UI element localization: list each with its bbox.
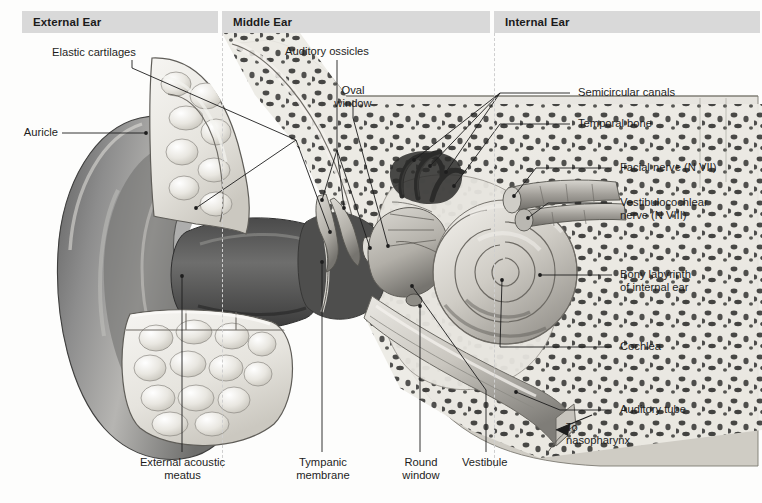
label-auditory-tube: Auditory tube — [620, 403, 686, 416]
label-vestibulocochlear-nerve: Vestibulocochlear nerve (N VIII) — [620, 196, 708, 223]
label-round-window: Round window — [392, 456, 450, 483]
label-tympanic-membrane: Tympanic membrane — [287, 456, 359, 483]
region-header-internal-ear: Internal Ear — [494, 11, 760, 33]
label-vestibule: Vestibule — [462, 456, 507, 469]
anatomy-illustration — [0, 0, 762, 503]
label-cochlea: Cochlea — [620, 340, 661, 353]
facial-nerve-art — [503, 187, 521, 213]
region-header-internal-ear-label: Internal Ear — [494, 16, 569, 28]
ear-anatomy-figure: External Ear Middle Ear Internal Ear Ela… — [0, 0, 762, 503]
region-header-external-ear: External Ear — [22, 11, 218, 33]
label-bony-labyrinth: Bony labyrinth of internal ear — [620, 268, 691, 295]
region-divider-external-middle — [222, 33, 223, 468]
region-header-middle-ear-label: Middle Ear — [222, 16, 292, 28]
label-oval-window: Oval window — [318, 84, 388, 111]
label-temporal-bone: Temporal bone — [578, 117, 652, 130]
label-facial-nerve: Facial nerve (N VII) — [620, 161, 716, 174]
label-elastic-cartilages: Elastic cartilages — [52, 46, 136, 59]
vestibulocochlear-nerve-art — [515, 209, 533, 231]
round-window-art — [406, 294, 422, 306]
region-divider-middle-internal — [494, 33, 495, 468]
label-auditory-ossicles: Auditory ossicles — [285, 45, 369, 58]
label-auricle: Auricle — [0, 126, 58, 139]
region-header-external-ear-label: External Ear — [22, 16, 101, 28]
label-semicircular-canals: Semicircular canals — [578, 86, 675, 99]
label-external-acoustic-meatus: External acoustic meatus — [110, 456, 255, 483]
region-header-middle-ear: Middle Ear — [222, 11, 490, 33]
label-to-nasopharynx: To nasopharynx — [566, 421, 630, 448]
